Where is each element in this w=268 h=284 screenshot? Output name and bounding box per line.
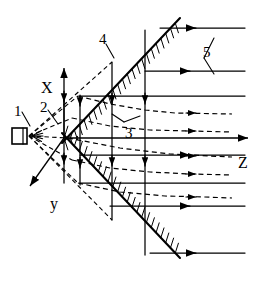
callout-label-4: 4 [99, 32, 107, 47]
streamline [72, 118, 232, 132]
callout-label-3: 3 [125, 126, 133, 141]
schematic-diagram [0, 0, 268, 284]
callout-label-2: 2 [40, 100, 48, 115]
callout-label-5: 5 [203, 45, 211, 60]
streamline [68, 138, 232, 157]
axis-label-z: Z [238, 155, 248, 171]
emitter-body [12, 128, 27, 144]
callout-label-1: 1 [14, 104, 22, 119]
transverse-lines [64, 30, 145, 255]
streamline [78, 183, 232, 198]
source-emitter [12, 128, 27, 144]
flow-lines-solid [80, 28, 245, 253]
axis-y [30, 138, 64, 186]
axis-label-x: X [41, 80, 53, 96]
source-ray [29, 136, 112, 220]
axis-label-y: y [50, 196, 58, 212]
